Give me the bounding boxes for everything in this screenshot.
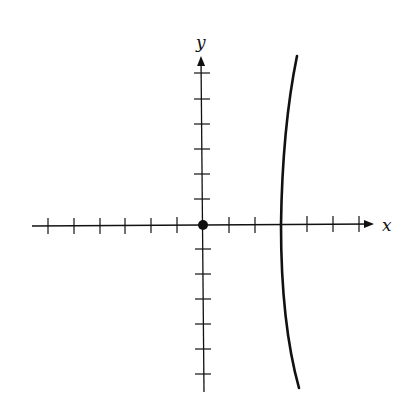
- hyperbola-curve: [281, 56, 299, 388]
- y-axis-label: y: [195, 32, 206, 52]
- x-axis-label: x: [382, 215, 392, 235]
- coordinate-plane: x y: [0, 0, 402, 402]
- origin-point: [198, 220, 208, 230]
